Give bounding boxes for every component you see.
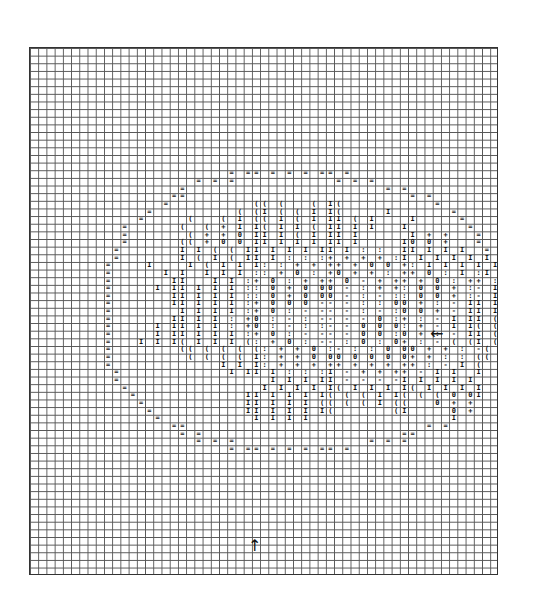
map-symbol: + — [310, 362, 318, 370]
map-symbol: ( — [178, 224, 186, 232]
map-symbol: I — [170, 300, 178, 308]
map-symbol: = — [269, 446, 277, 454]
map-symbol: 0 — [359, 339, 367, 347]
map-symbol: I — [400, 224, 408, 232]
map-symbol: 0 — [433, 400, 441, 408]
map-symbol: ( — [186, 239, 194, 247]
map-symbol: = — [112, 255, 120, 263]
map-symbol: I — [285, 377, 293, 385]
map-symbol: 0 — [392, 339, 400, 347]
map-symbol: ( — [335, 385, 343, 393]
map-symbol: I — [211, 339, 219, 347]
map-symbol: = — [244, 446, 252, 454]
map-symbol: - — [442, 362, 450, 370]
map-symbol: I — [293, 385, 301, 393]
map-symbol: = — [302, 170, 310, 178]
map-symbol: + — [367, 362, 375, 370]
map-symbol: I — [277, 239, 285, 247]
map-symbol: 0 — [285, 339, 293, 347]
map-symbol: = — [244, 170, 252, 178]
map-symbol: I — [219, 362, 227, 370]
map-symbol: : — [310, 270, 318, 278]
map-symbol: I — [474, 369, 482, 377]
map-symbol: I — [433, 255, 441, 263]
map-symbol: = — [326, 170, 334, 178]
map-symbol: 0 — [425, 270, 433, 278]
left-arrow-marker-icon: ← — [430, 324, 443, 343]
map-symbol: I — [186, 262, 194, 270]
map-symbol: = — [153, 415, 161, 423]
map-symbol: ( — [450, 339, 458, 347]
map-symbol: = — [466, 224, 474, 232]
map-symbol: I — [203, 270, 211, 278]
map-symbol: + — [343, 255, 351, 263]
map-symbol: I — [153, 339, 161, 347]
map-symbol: I — [417, 377, 425, 385]
map-symbol: = — [121, 385, 129, 393]
map-symbol: + — [367, 270, 375, 278]
map-symbol: I — [466, 255, 474, 263]
map-symbol: I — [367, 385, 375, 393]
map-symbol: - — [359, 377, 367, 385]
map-symbol: ( — [392, 408, 400, 416]
map-symbol: = — [384, 186, 392, 194]
map-symbol: I — [409, 247, 417, 255]
map-symbol: I — [269, 377, 277, 385]
map-symbol: + — [335, 362, 343, 370]
map-symbol: I — [236, 362, 244, 370]
map-symbol: = — [195, 178, 203, 186]
map-symbol: = — [442, 423, 450, 431]
up-arrow-marker-icon: ↑ — [248, 536, 261, 555]
map-symbol: + — [409, 270, 417, 278]
map-symbol: = — [162, 201, 170, 209]
map-symbol: ( — [343, 400, 351, 408]
map-symbol: + — [203, 239, 211, 247]
map-symbol: I — [384, 385, 392, 393]
map-symbol: I — [483, 270, 491, 278]
map-symbol: I — [228, 339, 236, 347]
map-symbol: ( — [359, 400, 367, 408]
map-symbol: = — [178, 431, 186, 439]
map-symbol: = — [400, 186, 408, 194]
map-symbol: : — [417, 339, 425, 347]
symbol-cells-layer: =======================((((I(==((I((II(I… — [30, 48, 497, 574]
map-symbol: I — [260, 239, 268, 247]
map-symbol: = — [104, 362, 112, 370]
map-symbol: I — [310, 239, 318, 247]
map-symbol: I — [376, 400, 384, 408]
map-symbol: ( — [178, 346, 186, 354]
map-symbol: I — [417, 255, 425, 263]
map-symbol: I — [252, 369, 260, 377]
map-symbol: = — [112, 377, 120, 385]
map-symbol: I — [474, 392, 482, 400]
map-symbol: I — [236, 270, 244, 278]
map-symbol: = — [302, 446, 310, 454]
map-symbol: I — [170, 339, 178, 347]
map-symbol: = — [409, 431, 417, 439]
map-symbol: : — [302, 255, 310, 263]
map-symbol: + — [376, 255, 384, 263]
map-symbol: I — [384, 209, 392, 217]
map-symbol: I — [335, 239, 343, 247]
map-symbol: + — [277, 362, 285, 370]
map-symbol: = — [335, 178, 343, 186]
map-symbol: ( — [483, 354, 491, 362]
map-symbol: - — [343, 377, 351, 385]
map-symbol: = — [351, 178, 359, 186]
map-symbol: I — [450, 415, 458, 423]
map-symbol: I — [450, 377, 458, 385]
map-symbol: = — [269, 170, 277, 178]
map-symbol: : — [302, 339, 310, 347]
map-symbol: I — [269, 415, 277, 423]
map-symbol: I — [178, 255, 186, 263]
map-symbol: I — [433, 377, 441, 385]
map-symbol: I — [458, 247, 466, 255]
map-symbol: = — [343, 170, 351, 178]
map-symbol: + — [277, 270, 285, 278]
map-symbol: I — [351, 385, 359, 393]
map-symbol: I — [458, 270, 466, 278]
map-symbol: 0 — [219, 239, 227, 247]
map-symbol: 0 — [293, 270, 301, 278]
map-symbol: = — [367, 438, 375, 446]
map-symbol: + — [351, 362, 359, 370]
